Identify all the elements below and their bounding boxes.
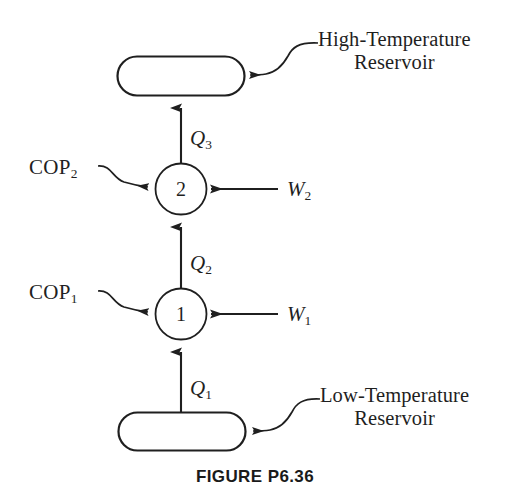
cop-1-leader-line [98,291,148,312]
cop-1-label-text: COP [29,280,71,304]
high-temperature-reservoir-leader-line [250,43,318,75]
low-temperature-reservoir-label-line2: Reservoir [320,407,469,430]
cop-2-label-text: COP [29,155,71,179]
work-w2-label: W2 [287,178,311,203]
heat-flow-q2-label-subscript: 2 [205,262,212,277]
high-temperature-reservoir-label: High-Temperature Reservoir [318,28,471,74]
cop-2-label: COP2 [29,156,77,181]
cop-2-leader-line [98,166,148,187]
heat-flow-q1-label-subscript: 1 [205,387,212,402]
heat-flow-q1-label-text: Q [190,376,205,400]
work-w1-label: W1 [287,303,311,328]
device-1-number: 1 [161,303,201,326]
cop-1-label-subscript: 1 [71,291,78,306]
device-2-number: 2 [161,178,201,201]
heat-flow-q2-label: Q2 [190,252,212,277]
figure-caption: FIGURE P6.36 [105,467,405,487]
heat-flow-q3-label: Q3 [190,127,212,152]
heat-flow-q1-label: Q1 [190,377,212,402]
cop-2-label-subscript: 2 [71,166,78,181]
cop-1-label: COP1 [29,281,77,306]
figure-container: High-Temperature Reservoir Low-Temperatu… [0,0,505,503]
low-temperature-reservoir-shape [119,413,246,451]
work-w2-label-subscript: 2 [305,188,312,203]
heat-flow-q2-label-text: Q [190,251,205,275]
low-temperature-reservoir-label-line1: Low-Temperature [320,384,469,406]
high-temperature-reservoir-label-line1: High-Temperature [318,28,471,50]
heat-flow-q3-label-text: Q [190,126,205,150]
work-w2-label-text: W [287,177,305,201]
work-w1-label-subscript: 1 [305,313,312,328]
high-temperature-reservoir-label-line2: Reservoir [318,51,471,74]
work-w1-label-text: W [287,302,305,326]
low-temperature-reservoir-leader-line [253,399,320,431]
high-temperature-reservoir-shape [118,57,245,96]
low-temperature-reservoir-label: Low-Temperature Reservoir [320,384,469,430]
heat-flow-q3-label-subscript: 3 [205,137,212,152]
